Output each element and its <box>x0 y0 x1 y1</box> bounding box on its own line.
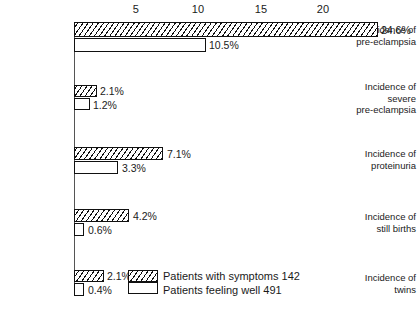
bar-still-births-symptoms <box>74 209 129 222</box>
bar-value-pre-eclampsia-well: 10.5% <box>209 39 239 51</box>
bar-twins-well <box>74 283 84 296</box>
category-label-severe-pre-eclampsia: Incidence of severe pre-eclampsia <box>344 81 418 116</box>
bar-value-proteinuria-symptoms: 7.1% <box>167 148 191 160</box>
bar-value-still-births-symptoms: 4.2% <box>133 210 157 222</box>
axis-tick-15: 15 <box>255 3 268 15</box>
bar-value-severe-pre-eclampsia-well: 1.2% <box>93 99 117 111</box>
bar-chart: 5 10 15 20 Incidence of pre-eclampsia 24… <box>0 0 418 314</box>
bar-proteinuria-well <box>74 161 118 174</box>
category-label-still-births: Incidence of still births <box>344 211 418 234</box>
axis-tick-10: 10 <box>192 3 205 15</box>
bar-proteinuria-symptoms <box>74 147 163 160</box>
category-label-twins: Incidence of twins <box>344 272 418 295</box>
bar-value-twins-well: 0.4% <box>88 284 112 296</box>
axis-tick-20: 20 <box>317 3 330 15</box>
category-label-proteinuria: Incidence of proteinuria <box>344 148 418 171</box>
bar-value-proteinuria-well: 3.3% <box>122 162 146 174</box>
bar-value-severe-pre-eclampsia-symptoms: 2.1% <box>100 85 124 97</box>
bar-severe-pre-eclampsia-symptoms <box>74 85 97 97</box>
bar-pre-eclampsia-well <box>74 38 206 52</box>
bar-severe-pre-eclampsia-well <box>74 98 90 110</box>
legend-swatch-well <box>128 282 158 294</box>
legend-label-symptoms: Patients with symptoms 142 <box>163 270 300 283</box>
legend-label-well: Patients feeling well 491 <box>163 284 282 297</box>
legend-swatch-symptoms <box>128 270 158 282</box>
bar-value-pre-eclampsia-symptoms: 24.6% <box>381 24 411 36</box>
axis-tick-5: 5 <box>133 3 139 15</box>
bar-twins-symptoms <box>74 270 104 282</box>
bar-pre-eclampsia-symptoms <box>74 22 378 37</box>
bar-value-still-births-well: 0.6% <box>88 224 112 236</box>
bar-still-births-well <box>74 223 84 236</box>
